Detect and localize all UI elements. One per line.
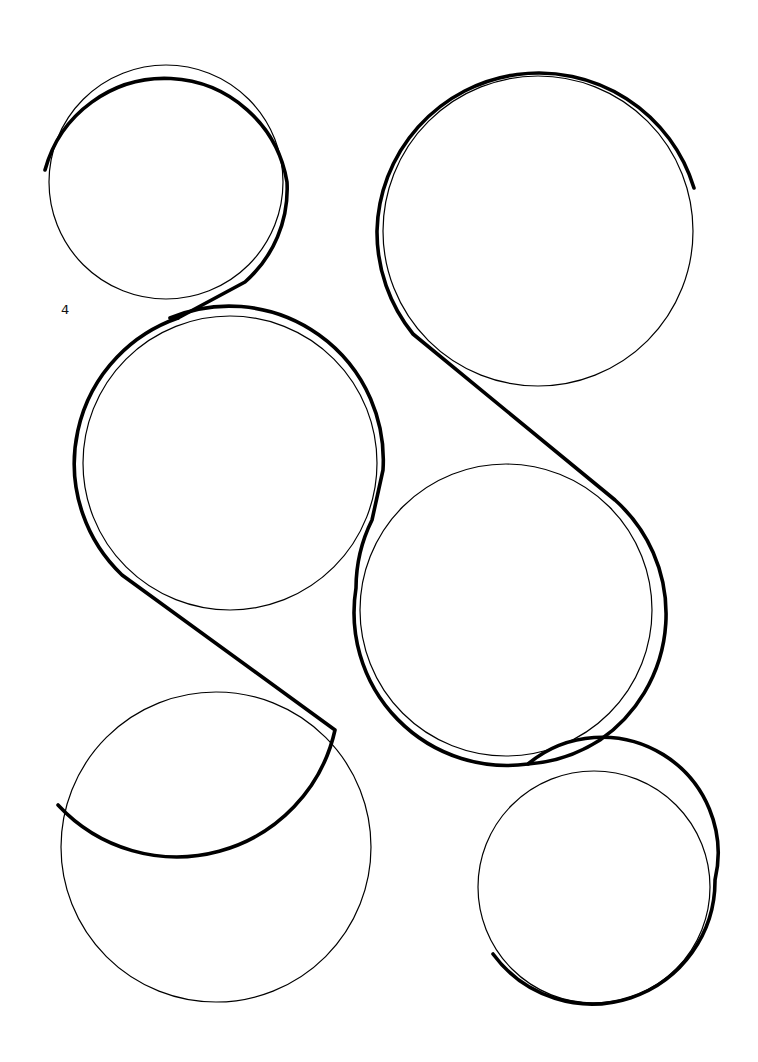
circle-top-right [383, 76, 693, 386]
track-segment-3 [58, 318, 335, 857]
circle-bottom-left [61, 692, 371, 1002]
track-diagram [0, 0, 758, 1062]
track-segment-4 [377, 73, 694, 764]
circle-middle-right [360, 464, 652, 756]
thick-track [45, 73, 718, 1004]
circle-top-left [49, 65, 283, 299]
page-number-label: 4 [61, 302, 69, 317]
circle-bottom-right [478, 771, 710, 1003]
track-segment-1 [45, 78, 287, 318]
circle-middle-left [83, 316, 377, 610]
track-segment-2 [170, 306, 718, 1004]
